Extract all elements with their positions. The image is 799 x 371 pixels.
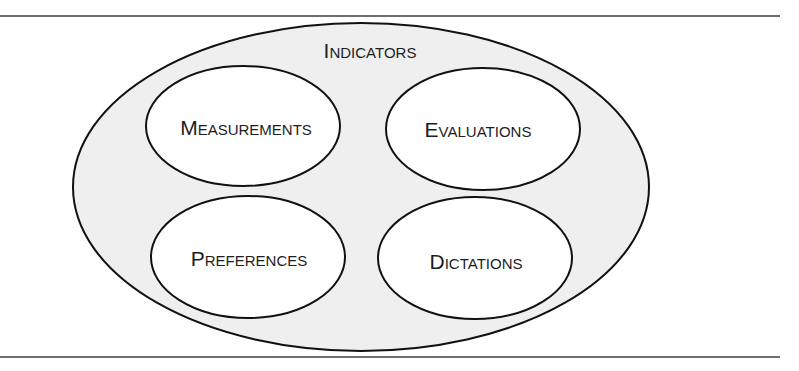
label-indicators: Indicators	[324, 39, 417, 63]
label-preferences: Preferences	[191, 247, 308, 271]
label-evaluations: Evaluations	[425, 118, 532, 142]
label-dictations: Dictations	[430, 250, 523, 274]
outer-ellipse-indicators	[73, 23, 649, 351]
label-measurements: Measurements	[180, 116, 312, 140]
